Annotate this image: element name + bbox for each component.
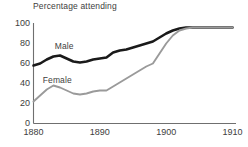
plot-area <box>0 0 248 147</box>
chart-container: Percentage attending 020406080100 188018… <box>0 0 248 147</box>
series-label-male: Male <box>55 41 74 51</box>
series-label-female: Female <box>43 75 72 85</box>
series-line-female <box>34 28 233 102</box>
